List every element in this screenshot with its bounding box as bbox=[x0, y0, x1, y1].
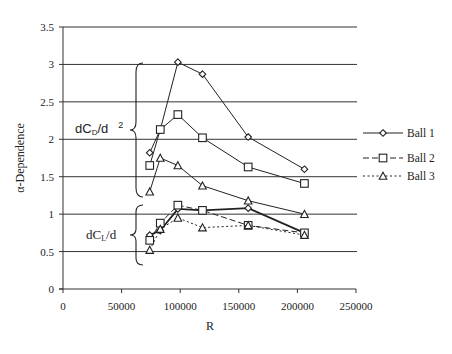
diamond-marker bbox=[199, 71, 206, 78]
legend-label: Ball 1 bbox=[407, 127, 435, 139]
square-marker bbox=[174, 201, 182, 209]
lift-derivative-label: dCL/d bbox=[86, 227, 117, 243]
y-tick-label: 1 bbox=[49, 208, 55, 220]
triangle-marker bbox=[146, 188, 154, 195]
triangle-marker bbox=[156, 154, 164, 161]
diamond-marker bbox=[301, 166, 308, 173]
x-axis-title: R bbox=[206, 319, 214, 333]
diamond-marker bbox=[146, 149, 153, 156]
y-tick-label: 3.5 bbox=[40, 21, 54, 33]
triangle-marker bbox=[174, 214, 182, 221]
x-tick-label: 150000 bbox=[222, 300, 256, 312]
y-tick-labels: 00.511.522.533.5 bbox=[40, 21, 54, 295]
series-ball-3-drag bbox=[146, 154, 308, 217]
x-tick-label: 250000 bbox=[340, 300, 374, 312]
legend-item-ball-3: Ball 3 bbox=[363, 170, 435, 182]
series-ball-3-lift bbox=[146, 214, 308, 253]
square-marker bbox=[301, 180, 309, 188]
gridlines bbox=[63, 27, 357, 252]
drag-derivative-label: dCD/d2 bbox=[75, 120, 123, 137]
triangle-marker bbox=[174, 162, 182, 169]
x-tick-label: 100000 bbox=[164, 300, 198, 312]
y-tick-label: 2.5 bbox=[40, 96, 54, 108]
y-tick-label: 2 bbox=[49, 133, 55, 145]
square-marker bbox=[156, 126, 164, 134]
series-ball-2-lift bbox=[146, 201, 308, 244]
x-tick-label: 200000 bbox=[281, 300, 315, 312]
x-tick-label: 0 bbox=[60, 300, 66, 312]
series-line bbox=[150, 158, 305, 214]
series-line bbox=[150, 115, 305, 184]
square-marker bbox=[244, 163, 252, 171]
square-marker bbox=[199, 134, 207, 142]
series-ball-1-drag bbox=[146, 59, 307, 173]
square-marker bbox=[174, 111, 182, 119]
diamond-marker bbox=[380, 130, 387, 137]
axes bbox=[59, 27, 356, 293]
legend-item-ball-1: Ball 1 bbox=[363, 127, 435, 139]
square-marker bbox=[199, 207, 207, 215]
square-marker bbox=[146, 237, 154, 245]
y-tick-label: 3 bbox=[49, 58, 55, 70]
x-tick-labels: 050000100000150000200000250000 bbox=[60, 300, 373, 312]
legend-label: Ball 2 bbox=[407, 152, 435, 164]
y-tick-label: 1.5 bbox=[40, 171, 54, 183]
legend-label: Ball 3 bbox=[407, 170, 435, 182]
y-tick-label: 0.5 bbox=[40, 246, 54, 258]
legend: Ball 1Ball 2Ball 3 bbox=[363, 127, 435, 182]
square-marker bbox=[379, 154, 387, 162]
alpha-dependence-chart: 00.511.522.533.5 05000010000015000020000… bbox=[0, 0, 452, 354]
data-series bbox=[146, 59, 308, 253]
square-marker bbox=[146, 162, 154, 170]
triangle-marker bbox=[244, 197, 252, 204]
triangle-marker bbox=[146, 246, 154, 253]
y-tick-label: 0 bbox=[49, 283, 55, 295]
diamond-marker bbox=[245, 205, 252, 212]
series-ball-1-lift bbox=[146, 205, 307, 239]
y-axis-title: α-Dependence bbox=[13, 123, 27, 193]
legend-item-ball-2: Ball 2 bbox=[363, 152, 435, 164]
x-tick-label: 50000 bbox=[108, 300, 136, 312]
series-ball-2-drag bbox=[146, 111, 308, 187]
